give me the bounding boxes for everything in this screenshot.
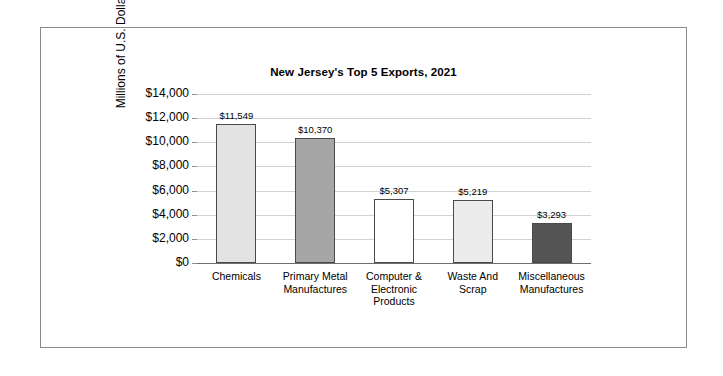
chart-title: New Jersey's Top 5 Exports, 2021 xyxy=(41,66,686,78)
x-category-label: Primary MetalManufactures xyxy=(276,270,355,295)
bar[interactable] xyxy=(216,124,256,263)
x-category-label-line: Scrap xyxy=(459,283,486,295)
y-axis-title: Millions of U.S. Dollars xyxy=(114,0,128,128)
chart-frame: New Jersey's Top 5 Exports, 2021 Million… xyxy=(40,27,687,348)
y-axis-tick xyxy=(192,239,197,240)
y-tick-label: $10,000 xyxy=(69,134,189,148)
y-axis-tick xyxy=(192,142,197,143)
y-tick-label: $6,000 xyxy=(69,183,189,197)
bar-slot: $11,549 xyxy=(216,94,256,263)
x-category-label-line: Miscellaneous xyxy=(518,270,585,282)
y-axis-tick xyxy=(192,166,197,167)
x-axis-baseline xyxy=(197,263,591,264)
y-tick-label: $0 xyxy=(69,255,189,269)
bar[interactable] xyxy=(374,199,414,263)
x-category-label-line: Waste And xyxy=(448,270,498,282)
bar[interactable] xyxy=(453,200,493,263)
bar-slot: $10,370 xyxy=(295,94,335,263)
y-axis-tick xyxy=(192,94,197,95)
y-tick-label: $2,000 xyxy=(69,231,189,245)
y-tick-label: $14,000 xyxy=(69,86,189,100)
bar-value-label: $5,219 xyxy=(431,186,515,197)
bar-value-label: $3,293 xyxy=(510,209,594,220)
y-axis-tick xyxy=(192,191,197,192)
x-category-label-line: Products xyxy=(373,295,414,307)
x-category-label-line: Manufactures xyxy=(520,283,584,295)
x-category-label: MiscellaneousManufactures xyxy=(512,270,591,295)
x-category-label: Waste AndScrap xyxy=(433,270,512,295)
x-category-label-line: Computer & xyxy=(366,270,422,282)
bar-slot: $5,219 xyxy=(453,94,493,263)
x-category-label: Computer &ElectronicProducts xyxy=(355,270,434,308)
plot-area: $14,000$12,000$10,000$8,000$6,000$4,000$… xyxy=(197,94,591,263)
x-category-label-line: Chemicals xyxy=(212,270,261,282)
bar-value-label: $11,549 xyxy=(194,110,278,121)
bar-value-label: $5,307 xyxy=(352,185,436,196)
bar-value-label: $10,370 xyxy=(273,124,357,135)
bar[interactable] xyxy=(532,223,572,263)
x-category-label-line: Primary Metal xyxy=(283,270,348,282)
x-category-label: Chemicals xyxy=(197,270,276,283)
y-axis-tick xyxy=(192,215,197,216)
x-category-label-line: Electronic xyxy=(371,283,417,295)
y-tick-label: $8,000 xyxy=(69,158,189,172)
bar-slot: $5,307 xyxy=(374,94,414,263)
bar-slot: $3,293 xyxy=(532,94,572,263)
y-tick-label: $12,000 xyxy=(69,110,189,124)
x-category-label-line: Manufactures xyxy=(283,283,347,295)
bar[interactable] xyxy=(295,138,335,263)
y-tick-label: $4,000 xyxy=(69,207,189,221)
